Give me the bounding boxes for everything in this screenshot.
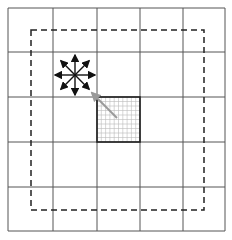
arrow-nw-icon bbox=[61, 61, 75, 75]
arrow-ne-icon bbox=[75, 61, 89, 75]
grid-diagram bbox=[0, 0, 232, 240]
arrow-sw-icon bbox=[61, 75, 75, 89]
dashed-boundary bbox=[31, 30, 204, 210]
eight-direction-arrows-icon bbox=[55, 55, 95, 95]
arrow-se-icon bbox=[75, 75, 89, 89]
